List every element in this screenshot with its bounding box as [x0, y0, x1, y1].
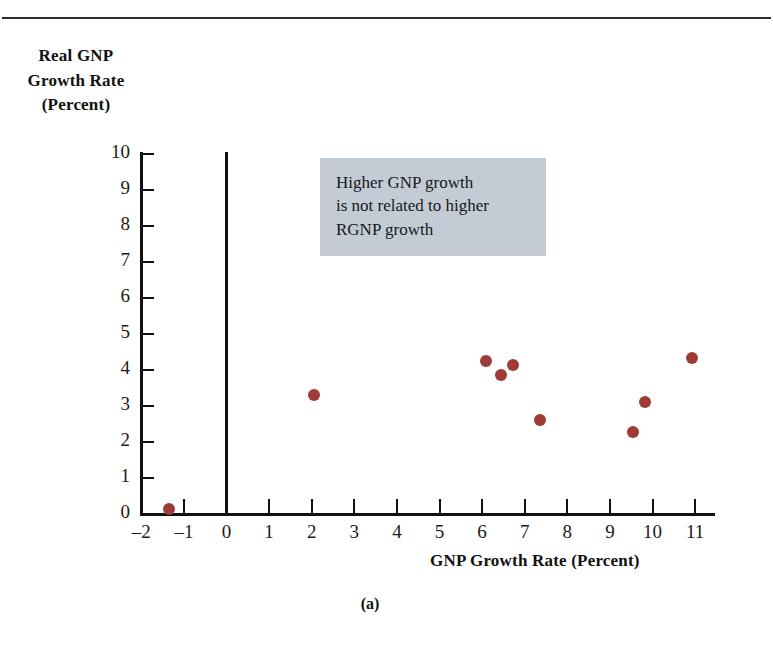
scatter-data-point [534, 414, 546, 426]
scatter-data-point [639, 396, 651, 408]
scatter-data-point [627, 426, 639, 438]
x-tick-mark [481, 499, 483, 514]
annotation-line-3: RGNP growth [336, 218, 530, 241]
scatter-data-point [507, 359, 519, 371]
y-tick-mark [143, 297, 154, 299]
x-tick-label: 1 [249, 521, 289, 543]
x-tick-mark [311, 499, 313, 514]
scatter-plot-area: 012345678910 –2–101234567891011 [0, 0, 773, 649]
y-tick-mark [143, 261, 154, 263]
x-tick-label: 4 [377, 521, 417, 543]
y-tick-label: 0 [96, 501, 130, 523]
y-tick-label: 1 [96, 465, 130, 487]
annotation-callout-box: Higher GNP growth is not related to high… [320, 158, 546, 256]
x-tick-mark [609, 499, 611, 514]
y-tick-label: 3 [96, 393, 130, 415]
x-tick-label: 3 [334, 521, 374, 543]
y-tick-mark [143, 405, 154, 407]
x-axis-title: GNP Growth Rate (Percent) [430, 551, 640, 571]
annotation-line-2: is not related to higher [336, 194, 530, 217]
x-tick-label: 7 [505, 521, 545, 543]
y-tick-mark [143, 153, 154, 155]
y-tick-label: 8 [96, 213, 130, 235]
y-tick-mark [143, 225, 154, 227]
y-tick-mark [143, 441, 154, 443]
annotation-line-1: Higher GNP growth [336, 171, 530, 194]
scatter-data-point [163, 503, 175, 515]
scatter-data-point [495, 369, 507, 381]
x-tick-label: 11 [675, 521, 715, 543]
y-tick-label: 6 [96, 285, 130, 307]
x-tick-label: 8 [547, 521, 587, 543]
y-tick-label: 2 [96, 429, 130, 451]
y-tick-mark [143, 333, 154, 335]
y-tick-mark [143, 189, 154, 191]
y-tick-mark [143, 369, 154, 371]
x-tick-label: 0 [207, 521, 247, 543]
x-tick-label: 10 [633, 521, 673, 543]
x-tick-mark [439, 499, 441, 514]
x-tick-label: 6 [462, 521, 502, 543]
x-tick-mark [566, 499, 568, 514]
x-tick-mark [183, 499, 185, 514]
scatter-data-point [480, 355, 492, 367]
scatter-data-point [686, 352, 698, 364]
y-tick-mark [143, 477, 154, 479]
y-tick-label: 4 [96, 357, 130, 379]
y-tick-label: 5 [96, 321, 130, 343]
x-tick-mark [524, 499, 526, 514]
x-tick-mark [694, 499, 696, 514]
y-tick-label: 7 [96, 249, 130, 271]
x-tick-label: 5 [420, 521, 460, 543]
y-tick-label: 9 [96, 177, 130, 199]
y-tick-label: 10 [96, 141, 130, 163]
x-tick-mark [268, 499, 270, 514]
scatter-data-point [308, 389, 320, 401]
x-tick-mark [396, 499, 398, 514]
zero-vertical-reference-line [225, 152, 228, 516]
x-tick-label: –1 [164, 521, 204, 543]
x-tick-mark [353, 499, 355, 514]
x-tick-label: –2 [121, 521, 161, 543]
figure-panel: Real GNP Growth Rate (Percent) 012345678… [0, 0, 773, 649]
x-tick-mark [652, 499, 654, 514]
x-tick-label: 2 [292, 521, 332, 543]
figure-caption: (a) [330, 595, 410, 613]
x-tick-label: 9 [590, 521, 630, 543]
